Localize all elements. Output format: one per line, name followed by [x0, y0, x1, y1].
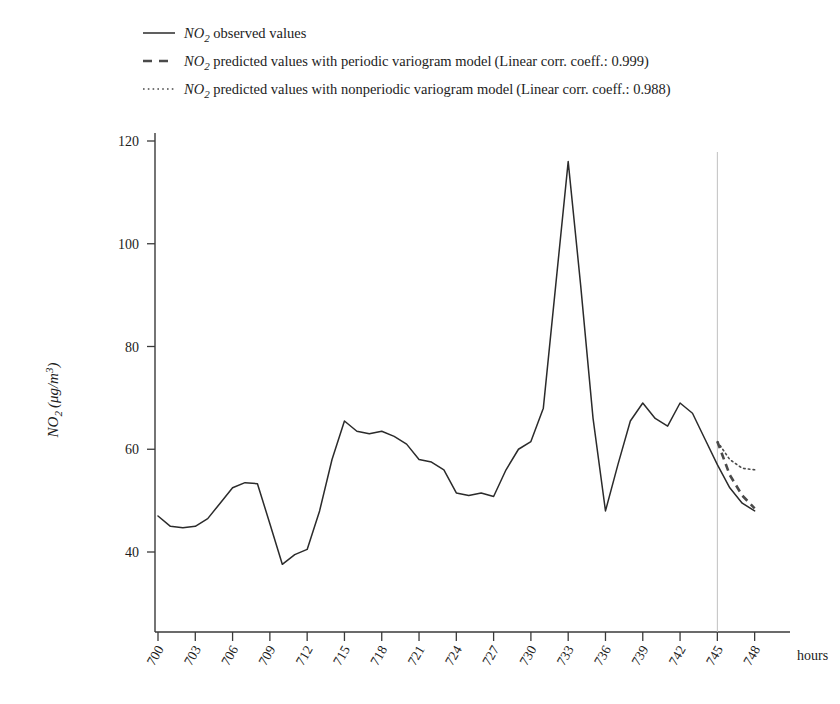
x-tick-label: 709 — [255, 643, 278, 668]
legend-suffix-2: (Linear corr. coeff.: 0.988) — [516, 81, 671, 98]
x-tick-group: 7007037067097127157187217247277307337367… — [143, 632, 763, 668]
x-tick-label: 733 — [554, 643, 577, 668]
legend-text-0: observed values — [210, 25, 307, 41]
x-tick-label: 724 — [442, 643, 465, 668]
legend-label-nonperiodic: NO2 predicted values with nonperiodic va… — [183, 81, 671, 100]
chart-figure: NO2 observed values NO2 predicted values… — [0, 0, 840, 704]
y-axis-title: NO2(μg/m3) — [43, 363, 64, 439]
y-tick-label: 120 — [118, 134, 139, 149]
y-title-units-close: ) — [45, 363, 62, 369]
x-tick-label: 721 — [405, 643, 428, 668]
x-tick-label: 727 — [479, 643, 502, 668]
x-tick-label: 745 — [703, 643, 726, 668]
y-title-species: NO — [45, 416, 61, 438]
x-tick-label: 736 — [591, 643, 614, 668]
x-tick-label: 739 — [628, 643, 651, 668]
legend-label-periodic: NO2 predicted values with periodic vario… — [183, 53, 649, 72]
legend-entry-nonperiodic: NO2 predicted values with nonperiodic va… — [143, 81, 671, 100]
y-title-sub: 2 — [52, 411, 64, 417]
y-tick-label: 40 — [125, 545, 139, 560]
x-tick-label: 718 — [367, 643, 390, 668]
x-tick-label: 703 — [181, 643, 204, 668]
legend-species-0: NO — [183, 25, 205, 41]
legend-text-1: predicted values with periodic variogram… — [210, 53, 492, 69]
no2-timeseries-chart: NO2 observed values NO2 predicted values… — [0, 0, 840, 704]
legend-label-observed: NO2 observed values — [183, 25, 307, 44]
y-title-units-open: (μg/m — [45, 373, 62, 408]
legend-entry-periodic: NO2 predicted values with periodic vario… — [143, 53, 649, 72]
x-axis-title: hours — [797, 648, 828, 663]
y-tick-label: 60 — [125, 442, 139, 457]
x-tick-label: 730 — [516, 643, 539, 668]
x-axis: 7007037067097127157187217247277307337367… — [143, 632, 828, 668]
chart-series-group — [158, 162, 755, 565]
y-axis: 406080100120 NO2(μg/m3) — [43, 133, 155, 632]
series-line-observed — [158, 162, 755, 565]
legend-species-1: NO — [183, 53, 205, 69]
legend-species-2: NO — [183, 81, 205, 97]
y-tick-group: 406080100120 — [118, 134, 155, 560]
x-tick-label: 706 — [218, 643, 241, 668]
x-tick-label: 715 — [330, 643, 353, 668]
x-tick-label: 700 — [143, 643, 166, 668]
chart-legend: NO2 observed values NO2 predicted values… — [143, 25, 671, 100]
legend-suffix-1: (Linear corr. coeff.: 0.999) — [495, 53, 650, 70]
legend-text-2: predicted values with nonperiodic variog… — [210, 81, 514, 97]
legend-entry-observed: NO2 observed values — [143, 25, 307, 44]
y-tick-label: 100 — [118, 237, 139, 252]
x-tick-label: 712 — [293, 643, 316, 668]
y-tick-label: 80 — [125, 340, 139, 355]
x-tick-label: 748 — [740, 643, 763, 668]
x-tick-label: 742 — [666, 643, 689, 668]
